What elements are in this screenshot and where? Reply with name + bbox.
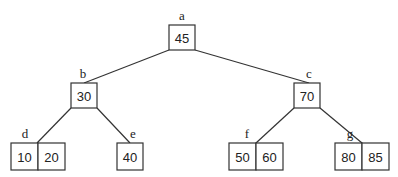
key-value: 20 [44, 150, 58, 165]
key-value: 30 [77, 89, 91, 104]
b-tree-diagram: 45a30b70c1020d40e5060f8085g [0, 0, 398, 177]
node-c: 70c [294, 66, 320, 108]
edge-a-b [84, 50, 169, 83]
key-value: 70 [300, 89, 314, 104]
key-value: 60 [262, 150, 276, 165]
node-a: 45a [169, 8, 195, 50]
node-label: g [347, 126, 354, 141]
key-value: 50 [235, 150, 249, 165]
node-g: 8085g [335, 126, 389, 170]
node-label: f [245, 126, 250, 141]
key-value: 85 [368, 150, 382, 165]
edge-a-c [195, 50, 309, 83]
node-f: 5060f [229, 126, 283, 170]
key-value: 40 [123, 150, 137, 165]
node-d: 1020d [11, 126, 65, 170]
edge-b-d [37, 108, 71, 143]
key-value: 45 [175, 31, 189, 46]
key-value: 10 [17, 150, 31, 165]
node-label: c [306, 66, 312, 81]
node-label: a [179, 8, 185, 23]
node-label: b [80, 66, 87, 81]
node-label: e [130, 126, 136, 141]
edge-b-e [97, 108, 130, 143]
edge-c-f [256, 108, 294, 143]
node-b: 30b [71, 66, 97, 108]
key-value: 80 [341, 150, 355, 165]
edge-c-g [320, 108, 362, 143]
node-label: d [22, 126, 29, 141]
